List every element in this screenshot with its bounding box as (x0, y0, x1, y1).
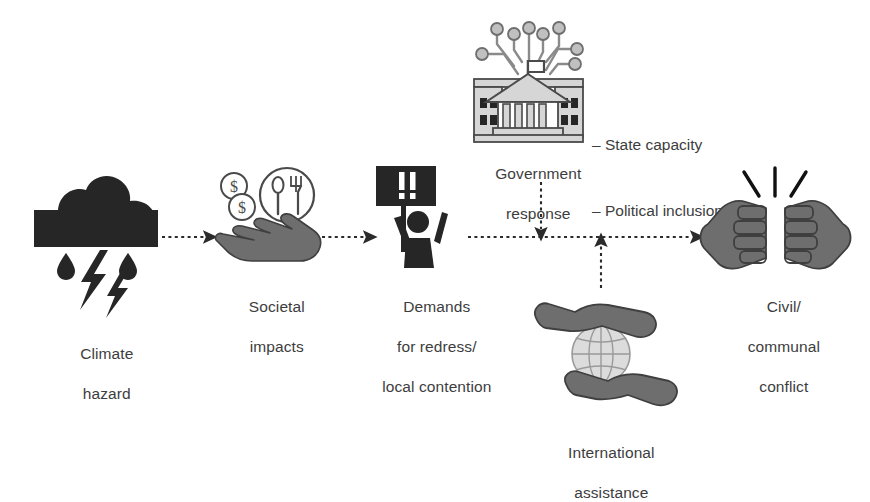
label-government-response-line1: Government (495, 165, 581, 182)
svg-text:$: $ (230, 178, 238, 195)
label-demands-redress-line2: for redress/ (397, 338, 477, 355)
open-hand-icon (215, 214, 320, 261)
label-international-assistance-line2: assistance (574, 484, 648, 501)
label-civil-conflict: Civil/ communal conflict (700, 277, 850, 417)
node-societal-impacts: $ $ (212, 166, 324, 276)
label-climate-hazard-line2: hazard (83, 385, 131, 402)
protester-with-sign-icon (368, 164, 468, 274)
hand-with-money-and-food-icon: $ $ (212, 166, 324, 276)
label-climate-hazard-line1: Climate (80, 345, 133, 362)
node-international-assistance (528, 288, 678, 418)
right-fist-icon (785, 201, 850, 269)
label-international-assistance: International assistance (520, 423, 685, 502)
label-climate-hazard: Climate hazard (18, 324, 178, 424)
svg-text:$: $ (238, 199, 246, 216)
label-societal-impacts: Societal impacts (198, 277, 338, 377)
label-demands-redress-line1: Demands (403, 298, 470, 315)
label-demands-redress: Demands for redress/ local contention (338, 277, 518, 417)
bullet-state-capacity: – State capacity (592, 134, 723, 156)
label-societal-impacts-line1: Societal (249, 298, 305, 315)
label-societal-impacts-line2: impacts (250, 338, 304, 355)
node-government-response (466, 22, 591, 147)
government-building-network-icon (466, 22, 591, 147)
node-climate-hazard (28, 170, 168, 315)
label-civil-conflict-line1: Civil/ (767, 298, 801, 315)
impact-lines-icon (744, 168, 806, 196)
label-international-assistance-line1: International (568, 444, 655, 461)
label-demands-redress-line3: local contention (382, 378, 491, 395)
hands-cradling-globe-icon (528, 288, 678, 418)
dollar-coin-icon: $ (229, 194, 255, 220)
left-fist-icon (701, 201, 766, 269)
node-demands-redress (368, 164, 468, 274)
label-civil-conflict-line3: conflict (759, 378, 808, 395)
storm-cloud-rain-lightning-icon (28, 170, 168, 315)
bottom-hand-icon (565, 371, 677, 405)
label-government-response: Government response (462, 144, 597, 244)
label-civil-conflict-line2: communal (748, 338, 820, 355)
clashing-fists-icon (698, 166, 853, 281)
node-civil-conflict (698, 166, 853, 281)
label-government-response-line2: response (506, 205, 571, 222)
